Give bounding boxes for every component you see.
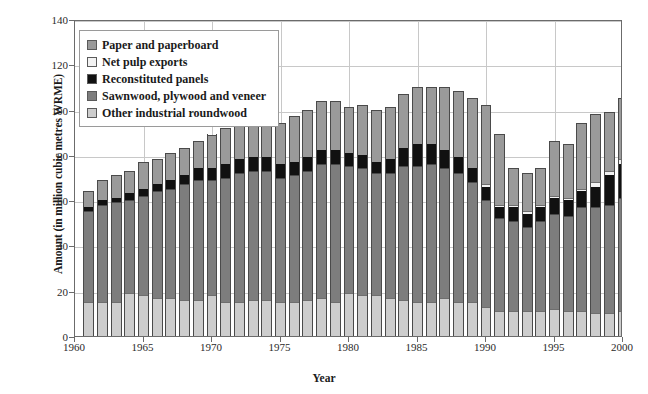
- bar-segment-recon: [536, 207, 545, 221]
- bar-segment-sawn: [221, 178, 230, 303]
- bar-segment-paper: [166, 153, 175, 180]
- bar-segment-sawn: [427, 164, 436, 302]
- bar-segment-sawn: [345, 166, 354, 293]
- bar-segment-recon: [235, 159, 244, 173]
- legend-swatch-icon: [87, 40, 97, 50]
- bar-1983: [385, 107, 396, 336]
- bar-segment-recon: [577, 191, 586, 207]
- bar-segment-paper: [495, 134, 504, 204]
- x-tick-mark: [417, 337, 418, 342]
- bar-2000: [618, 98, 622, 336]
- bar-1993: [522, 173, 533, 336]
- x-tick-mark: [554, 337, 555, 342]
- bar-segment-other: [468, 302, 477, 336]
- y-tick-label: 60: [34, 196, 68, 207]
- stacked-bar-chart: Amount (in million cubic metres WRME) Ye…: [0, 0, 648, 394]
- bar-1974: [261, 112, 272, 336]
- y-tick-label: 100: [34, 105, 68, 116]
- legend-item-sawn: Sawnwood, plywood and veneer: [87, 87, 266, 104]
- bar-segment-recon: [98, 200, 107, 205]
- bar-segment-paper: [98, 180, 107, 200]
- legend-label: Reconstituted panels: [102, 73, 208, 85]
- bar-1994: [535, 168, 546, 336]
- bar-segment-other: [303, 300, 312, 336]
- bar-segment-pulp: [550, 196, 559, 198]
- bar-segment-sawn: [482, 200, 491, 306]
- bar-segment-other: [331, 302, 340, 336]
- bar-segment-pulp: [619, 159, 622, 164]
- bar-segment-recon: [591, 187, 600, 207]
- bar-segment-recon: [482, 187, 491, 201]
- bar-segment-sawn: [276, 178, 285, 303]
- bar-segment-sawn: [591, 207, 600, 313]
- bar-segment-paper: [536, 168, 545, 204]
- bar-segment-sawn: [523, 227, 532, 311]
- y-tick-mark: [69, 292, 74, 293]
- bar-segment-recon: [290, 162, 299, 176]
- bar-segment-other: [440, 298, 449, 336]
- bar-segment-paper: [358, 105, 367, 155]
- bar-1970: [207, 134, 218, 336]
- legend-item-other: Other industrial roundwood: [87, 104, 266, 121]
- y-tick-mark: [69, 20, 74, 21]
- bar-segment-recon: [112, 198, 121, 203]
- bar-1966: [152, 159, 163, 336]
- y-tick-label: 20: [34, 286, 68, 297]
- bar-segment-sawn: [98, 205, 107, 302]
- bar-segment-other: [125, 293, 134, 336]
- bar-segment-recon: [468, 168, 477, 182]
- bar-segment-sawn: [208, 180, 217, 295]
- bar-segment-other: [317, 298, 326, 336]
- bar-segment-pulp: [523, 211, 532, 213]
- bar-segment-pulp: [605, 171, 614, 176]
- bar-segment-paper: [125, 171, 134, 194]
- bar-segment-other: [166, 298, 175, 336]
- bar-segment-sawn: [577, 207, 586, 311]
- bar-segment-sawn: [564, 216, 573, 311]
- bar-1990: [481, 105, 492, 336]
- bar-segment-sawn: [112, 202, 121, 302]
- bar-segment-recon: [605, 175, 614, 204]
- bar-segment-sawn: [468, 182, 477, 302]
- bar-1998: [590, 114, 601, 336]
- bar-1961: [83, 191, 94, 336]
- bar-segment-paper: [386, 107, 395, 159]
- bar-segment-recon: [84, 207, 93, 212]
- y-tick-mark: [69, 156, 74, 157]
- bar-segment-paper: [180, 148, 189, 175]
- bar-segment-recon: [194, 168, 203, 179]
- x-tick-label: 1985: [387, 341, 447, 353]
- bar-1981: [357, 105, 368, 336]
- bar-segment-sawn: [619, 198, 622, 311]
- bar-1991: [494, 134, 505, 336]
- bar-segment-sawn: [454, 173, 463, 302]
- bar-1979: [330, 101, 341, 336]
- y-tick-label: 40: [34, 241, 68, 252]
- bar-segment-sawn: [399, 166, 408, 300]
- bar-segment-other: [386, 298, 395, 336]
- bar-segment-sawn: [358, 168, 367, 295]
- y-tick-label: 80: [34, 150, 68, 161]
- x-tick-mark: [211, 337, 212, 342]
- y-tick-mark: [69, 201, 74, 202]
- bar-segment-sawn: [372, 173, 381, 295]
- bar-segment-paper: [550, 141, 559, 195]
- bar-1984: [398, 94, 409, 336]
- bar-segment-recon: [523, 214, 532, 228]
- x-tick-label: 1960: [44, 341, 104, 353]
- legend-item-pulp: Net pulp exports: [87, 53, 266, 70]
- x-tick-label: 2000: [592, 341, 648, 353]
- bar-segment-paper: [221, 128, 230, 164]
- bar-segment-paper: [208, 135, 217, 169]
- bar-segment-paper: [112, 175, 121, 198]
- bar-segment-other: [180, 300, 189, 336]
- legend-swatch-icon: [87, 74, 97, 84]
- x-tick-label: 1970: [181, 341, 241, 353]
- bar-1977: [302, 110, 313, 336]
- bar-segment-pulp: [591, 182, 600, 187]
- bar-1982: [371, 110, 382, 336]
- bar-segment-recon: [317, 150, 326, 164]
- bar-segment-recon: [372, 162, 381, 173]
- bar-segment-recon: [303, 157, 312, 171]
- bar-1972: [234, 123, 245, 336]
